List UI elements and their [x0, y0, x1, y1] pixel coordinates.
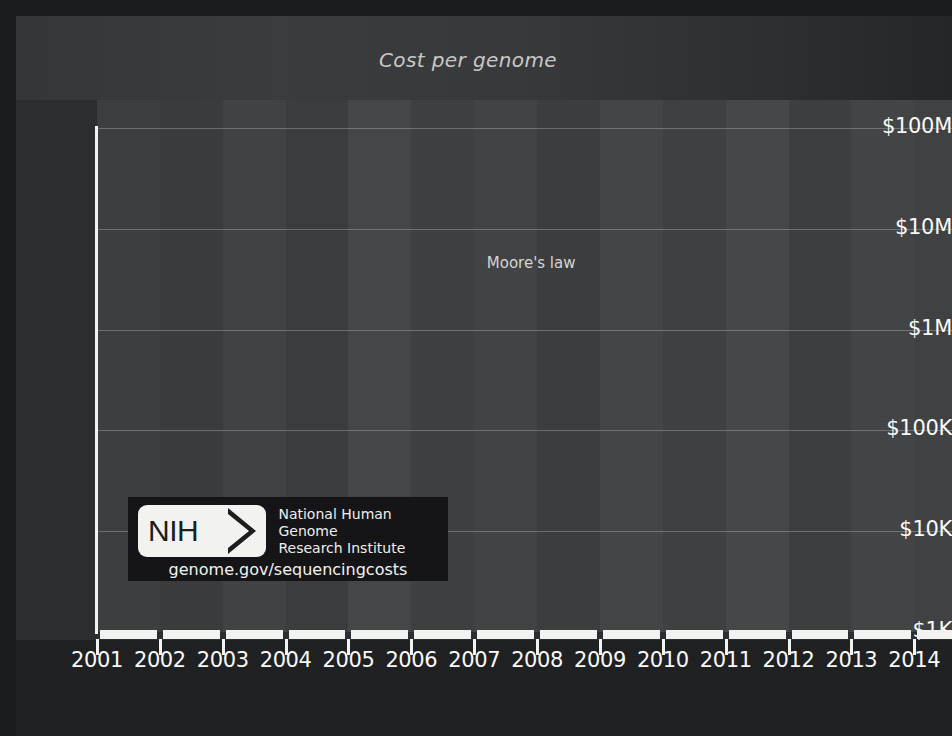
x-axis-segment: [163, 630, 220, 639]
nih-wordmark: NIH: [138, 514, 198, 548]
x-axis-tick-label: 2010: [633, 648, 693, 672]
logo-url: genome.gov/sequencingcosts: [128, 560, 448, 579]
year-band: [914, 100, 952, 632]
x-axis-tick-label: 2013: [821, 648, 881, 672]
x-axis-tick-label: 2007: [444, 648, 504, 672]
x-axis-segment: [289, 630, 346, 639]
x-axis-tick-label: 2003: [193, 648, 253, 672]
x-axis-tick-label: 2008: [507, 648, 567, 672]
x-axis-tick-label: 2005: [318, 648, 378, 672]
x-axis-tick-label: 2006: [381, 648, 441, 672]
year-band: [851, 100, 914, 632]
y-axis-tick-label: $100K: [864, 416, 952, 440]
nih-chevron-icon: [226, 507, 260, 555]
x-axis-segment: [666, 630, 723, 639]
chart-title: Cost per genome: [0, 48, 936, 72]
x-axis-segment: [540, 630, 597, 639]
y-axis-tick-label: $100M: [864, 114, 952, 138]
x-axis-tick-label: 2012: [759, 648, 819, 672]
x-axis-tick-label: 2009: [570, 648, 630, 672]
year-band: [726, 100, 789, 632]
x-axis-segment: [792, 630, 849, 639]
logo-row: NIH National Human Genome Research Insti…: [138, 505, 448, 557]
year-band: [663, 100, 726, 632]
y-axis-tick-label: $1M: [864, 316, 952, 340]
x-axis-tick-label: 2011: [696, 648, 756, 672]
x-axis-segment: [603, 630, 660, 639]
gridline: [97, 128, 952, 129]
year-band: [600, 100, 663, 632]
year-band: [474, 100, 537, 632]
y-axis-tick-label: $10M: [864, 215, 952, 239]
x-axis-segment: [729, 630, 786, 639]
nhgri-logo-block: NIH National Human Genome Research Insti…: [128, 497, 448, 581]
y-axis-tick-label: $10K: [864, 517, 952, 541]
y-axis-line: [95, 126, 98, 634]
year-band: [537, 100, 600, 632]
x-axis-segment: [917, 630, 952, 639]
x-axis-tick-label: 2001: [67, 648, 127, 672]
gridline: [97, 430, 952, 431]
gridline: [97, 330, 952, 331]
x-axis-tick-label: 2014: [884, 648, 944, 672]
x-axis-segment: [477, 630, 534, 639]
x-axis-segment: [226, 630, 283, 639]
x-axis: [95, 630, 952, 642]
x-axis-tick-label: 2004: [256, 648, 316, 672]
logo-org-line1: National Human Genome: [278, 506, 448, 540]
chart-screenshot: Cost per genome $100M$10M$1M$100K$10K$1K…: [0, 0, 952, 736]
x-axis-tick-label: 2002: [130, 648, 190, 672]
x-axis-segment: [351, 630, 408, 639]
logo-org-name: National Human Genome Research Institute: [278, 506, 448, 557]
gridline: [97, 229, 952, 230]
logo-org-line2: Research Institute: [278, 540, 448, 557]
nih-logo-mark: NIH: [138, 505, 266, 557]
x-axis-segment: [414, 630, 471, 639]
year-band: [789, 100, 852, 632]
x-axis-segment: [100, 630, 157, 639]
moore-law-annotation: Moore's law: [487, 254, 576, 272]
x-axis-segment: [854, 630, 911, 639]
